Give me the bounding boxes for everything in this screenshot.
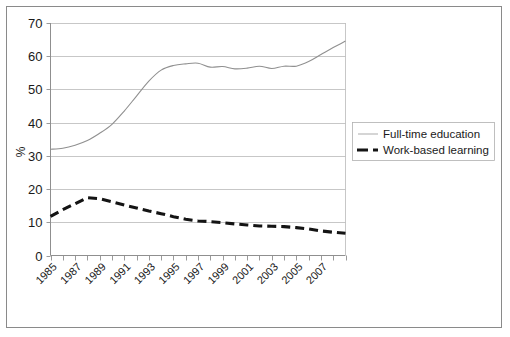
y-tick-label: 40: [28, 116, 42, 131]
x-tick-labels: 1985198719891991199319951997199920012003…: [33, 260, 329, 286]
x-tick-label: 1991: [107, 260, 133, 286]
x-tick-marks: [52, 256, 347, 261]
y-tick-label: 0: [35, 249, 42, 264]
x-tick-label: 2005: [279, 260, 305, 286]
x-tick-label: 2001: [230, 260, 256, 286]
y-tick-label: 30: [28, 149, 42, 164]
gridlines: [51, 24, 346, 223]
legend-label-full-time-education: Full-time education: [383, 128, 480, 140]
y-axis-title: %: [14, 146, 28, 157]
legend-label-work-based-learning: Work-based learning: [383, 144, 489, 156]
y-tick-marks: [47, 24, 51, 257]
y-tick-label: 50: [28, 82, 42, 97]
x-tick-label: 1993: [131, 260, 157, 286]
series-line-full-time-education: [51, 41, 346, 149]
x-tick-label: 1987: [58, 260, 84, 286]
x-tick-label: 1989: [82, 260, 108, 286]
x-tick-label: 1995: [156, 260, 182, 286]
y-tick-label: 20: [28, 182, 42, 197]
x-tick-label: 1997: [181, 260, 207, 286]
y-tick-labels: 010203040506070: [28, 16, 42, 264]
chart-legend: Full-time education Work-based learning: [353, 123, 495, 161]
series-line-work-based-learning: [51, 198, 346, 234]
x-tick-label: 2007: [304, 260, 330, 286]
chart-figure: 010203040506070 198519871989199119931995…: [0, 0, 510, 337]
y-tick-label: 70: [28, 16, 42, 31]
line-chart: 010203040506070 198519871989199119931995…: [0, 0, 510, 337]
x-tick-label: 2003: [254, 260, 280, 286]
x-tick-label: 1985: [33, 260, 59, 286]
x-tick-label: 1999: [205, 260, 231, 286]
y-tick-label: 60: [28, 49, 42, 64]
y-tick-label: 10: [28, 215, 42, 230]
